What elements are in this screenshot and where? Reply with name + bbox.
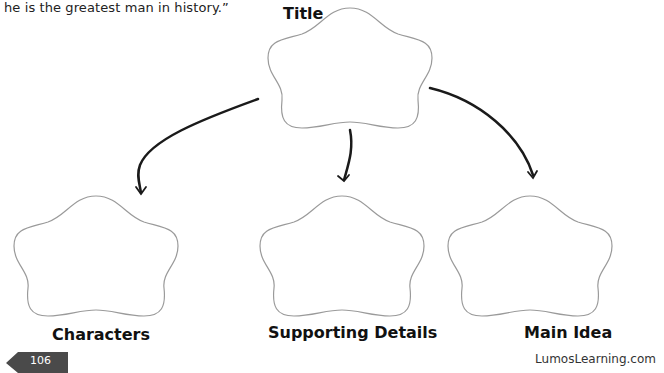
title-label: Title xyxy=(283,4,323,23)
characters-label: Characters xyxy=(52,325,150,344)
arrow-to-supporting-details xyxy=(338,130,351,181)
arrow-to-characters xyxy=(136,99,258,194)
characters-cloud xyxy=(14,196,178,316)
site-name: LumosLearning.com xyxy=(535,352,656,366)
main-idea-cloud xyxy=(448,196,612,316)
page-number: 106 xyxy=(30,354,51,367)
supporting-details-label: Supporting Details xyxy=(268,323,437,342)
title-cloud xyxy=(268,8,432,128)
graphic-organizer xyxy=(0,0,664,373)
arrow-to-main-idea xyxy=(430,88,537,178)
main-idea-label: Main Idea xyxy=(524,323,612,342)
supporting-details-cloud xyxy=(260,196,424,316)
